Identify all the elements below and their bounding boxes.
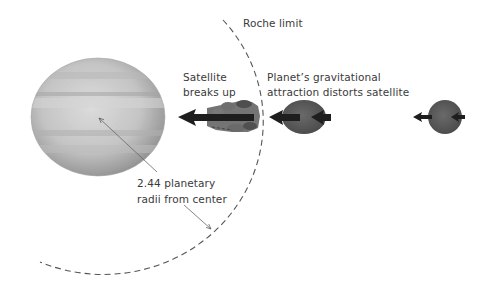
satellite-intact <box>413 100 465 134</box>
breaks-up-label-line2: breaks up <box>183 85 236 100</box>
breaks-up-label-line1: Satellite <box>183 70 227 85</box>
distance-label-line1: 2.44 planetary <box>137 176 215 191</box>
distorts-label-line1: Planet’s gravitational <box>267 70 381 85</box>
arrow-to-roche-limit <box>184 205 211 229</box>
distorts-label-line2: attraction distorts satellite <box>267 85 409 100</box>
diagram-graphics <box>0 0 486 287</box>
satellite-breaking-up <box>178 100 260 132</box>
roche-limit-label: Roche limit <box>243 16 303 31</box>
distance-label-line2: radii from center <box>137 192 227 207</box>
roche-limit-diagram: Roche limit Satellite breaks up Planet’s… <box>0 0 486 287</box>
satellite-distorted <box>269 100 331 134</box>
planet <box>30 58 170 176</box>
